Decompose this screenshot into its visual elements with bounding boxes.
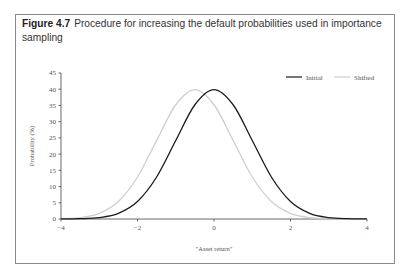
y-tick-label: 20 <box>49 151 57 159</box>
y-tick-label: 25 <box>49 134 57 142</box>
line-chart: 051015202530354045 −4−2024 Probability (… <box>0 0 410 280</box>
y-tick-label: 5 <box>53 199 57 207</box>
x-tick-label: 0 <box>212 224 216 232</box>
y-tick-label: 45 <box>49 69 57 77</box>
x-tick-label: −4 <box>57 224 65 232</box>
y-axis-title: Probability (%) <box>28 126 36 166</box>
x-tick-label: 4 <box>365 224 369 232</box>
x-axis: −4−2024 <box>57 219 369 232</box>
y-tick-label: 40 <box>49 86 57 94</box>
x-axis-title: "Asset return" <box>196 245 233 252</box>
y-tick-label: 15 <box>49 167 57 175</box>
x-tick-label: −2 <box>134 224 142 232</box>
legend-label-initial: Initial <box>306 74 323 82</box>
y-tick-label: 35 <box>49 102 57 110</box>
y-tick-label: 0 <box>53 215 57 223</box>
x-tick-label: 2 <box>289 224 293 232</box>
legend-label-shifted: Shifted <box>354 74 375 82</box>
series-shifted <box>61 90 367 219</box>
series-initial <box>61 90 367 219</box>
legend: InitialShifted <box>286 74 375 82</box>
y-tick-label: 30 <box>49 118 57 126</box>
chart-series <box>61 90 367 219</box>
y-tick-label: 10 <box>49 183 57 191</box>
y-axis: 051015202530354045 <box>49 69 61 223</box>
